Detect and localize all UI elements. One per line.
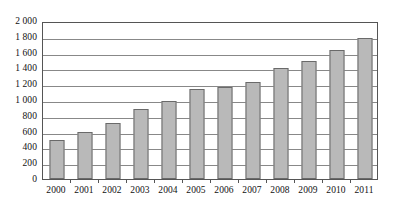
bar-slot (43, 23, 71, 179)
y-tick-label: 0 (0, 175, 37, 185)
x-tick-label: 2001 (70, 185, 98, 196)
x-tick-label: 2002 (98, 185, 126, 196)
y-axis: 02004006008001 0001 2001 4001 6001 8002 … (0, 0, 40, 208)
bar-slot (323, 23, 351, 179)
bar-2011 (358, 38, 373, 179)
y-tick-label: 400 (0, 143, 37, 153)
bar-2009 (302, 61, 317, 179)
x-tick-mark (98, 180, 99, 183)
bar-2002 (106, 123, 121, 179)
bar-chart: 02004006008001 0001 2001 4001 6001 8002 … (0, 0, 395, 208)
bar-2005 (190, 89, 205, 179)
y-tick-label: 200 (0, 159, 37, 169)
x-tick-label: 2003 (126, 185, 154, 196)
x-tick-label: 2008 (266, 185, 294, 196)
x-tick-mark (154, 180, 155, 183)
bar-2007 (246, 82, 261, 179)
x-tick-mark (126, 180, 127, 183)
x-tick-label: 2009 (294, 185, 322, 196)
y-tick-label: 1 000 (0, 96, 37, 106)
bar-slot (155, 23, 183, 179)
y-tick-label: 1 200 (0, 80, 37, 90)
bar-slot (267, 23, 295, 179)
bar-2001 (78, 132, 93, 179)
x-tick-mark (182, 180, 183, 183)
x-tick-label: 2000 (42, 185, 70, 196)
x-tick-mark (294, 180, 295, 183)
bar-2000 (50, 140, 65, 179)
y-tick-label: 1 800 (0, 33, 37, 43)
bar-slot (351, 23, 378, 179)
bar-slot (295, 23, 323, 179)
x-tick-mark (238, 180, 239, 183)
bar-2008 (274, 68, 289, 179)
x-tick-label: 2006 (210, 185, 238, 196)
bar-slot (99, 23, 127, 179)
bar-2004 (162, 101, 177, 179)
y-tick-label: 1 400 (0, 64, 37, 74)
x-tick-mark (210, 180, 211, 183)
y-tick-label: 600 (0, 128, 37, 138)
bar-slot (183, 23, 211, 179)
x-axis: 2000200120022003200420052006200720082009… (42, 185, 378, 205)
y-tick-label: 1 600 (0, 49, 37, 59)
bars-layer (43, 23, 377, 179)
x-tick-label: 2011 (350, 185, 378, 196)
x-tick-mark (266, 180, 267, 183)
bar-2010 (330, 50, 345, 179)
bar-slot (239, 23, 267, 179)
x-tick-label: 2004 (154, 185, 182, 196)
x-tick-label: 2010 (322, 185, 350, 196)
bar-slot (211, 23, 239, 179)
bar-slot (71, 23, 99, 179)
x-tick-label: 2007 (238, 185, 266, 196)
plot-area (42, 22, 378, 180)
x-tick-mark (70, 180, 71, 183)
x-axis-ticks (42, 180, 378, 184)
y-tick-label: 800 (0, 112, 37, 122)
x-tick-mark (350, 180, 351, 183)
y-tick-label: 2 000 (0, 17, 37, 27)
x-tick-label: 2005 (182, 185, 210, 196)
x-tick-mark (322, 180, 323, 183)
bar-slot (127, 23, 155, 179)
bar-2003 (134, 109, 149, 179)
bar-2006 (218, 87, 233, 179)
